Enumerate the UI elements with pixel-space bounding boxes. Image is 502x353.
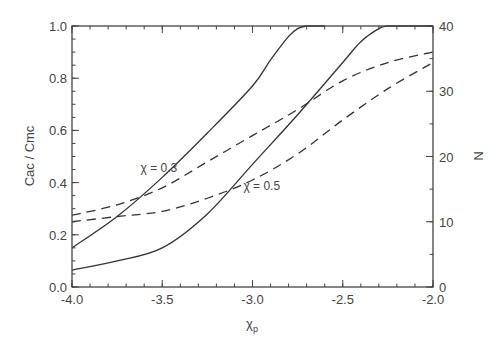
y2-tick-label: 0 xyxy=(439,280,446,295)
y-tick-label: 0.2 xyxy=(49,228,67,243)
series-line-0 xyxy=(72,26,325,248)
x-tick-label: -2.5 xyxy=(332,292,354,307)
y-tick-label: 1.0 xyxy=(49,19,67,34)
axes: -4.0-3.5-3.0-2.5-2.00.00.20.40.60.81.001… xyxy=(49,19,454,307)
y-tick-label: 0.8 xyxy=(49,71,67,86)
y-tick-label: 0.4 xyxy=(49,176,67,191)
y2-tick-label: 20 xyxy=(439,150,453,165)
y2-axis-title: N xyxy=(471,151,486,160)
x-tick-label: -3.0 xyxy=(241,292,263,307)
chart: -4.0-3.5-3.0-2.5-2.00.00.20.40.60.81.001… xyxy=(0,0,502,353)
y2-tick-label: 40 xyxy=(439,19,453,34)
y2-tick-label: 10 xyxy=(439,215,453,230)
y-tick-label: 0.6 xyxy=(49,123,67,138)
y-axis-title: Cac / Cmc xyxy=(22,125,37,186)
series-line-1 xyxy=(72,26,433,270)
x-axis-title: χp xyxy=(246,316,258,334)
x-tick-label: -3.5 xyxy=(151,292,173,307)
plot-frame xyxy=(72,26,433,287)
y-tick-label: 0.0 xyxy=(49,280,67,295)
plot-area xyxy=(72,26,433,270)
y2-tick-label: 30 xyxy=(439,84,453,99)
annotation-label: χ = 0.3 xyxy=(141,161,178,175)
annotation-label: χ = 0.5 xyxy=(243,179,280,193)
